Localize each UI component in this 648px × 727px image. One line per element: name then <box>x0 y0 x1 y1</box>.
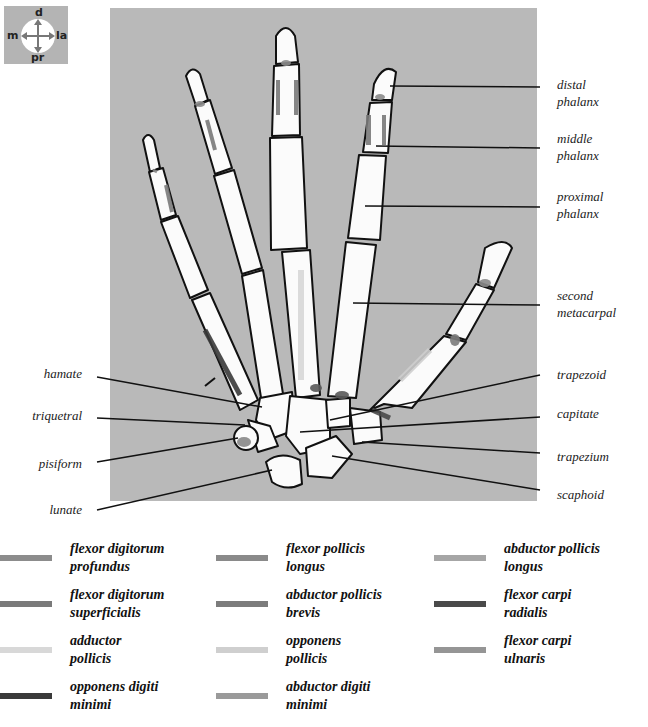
legend-swatch <box>434 647 486 653</box>
label-trapezium: trapezium <box>557 448 609 465</box>
legend-label: opponenspollicis <box>286 632 341 668</box>
label-distal-phalanx: distal phalanx <box>557 76 599 110</box>
label-second-metacarpal: second metacarpal <box>557 287 616 321</box>
trapezoid-bone <box>326 398 350 428</box>
label-proximal-phalanx: proximal phalanx <box>557 188 603 222</box>
label-pisiform: pisiform <box>2 455 82 472</box>
legend-swatch <box>0 601 52 607</box>
label-capitate: capitate <box>557 405 599 422</box>
label-line: second <box>557 287 616 304</box>
label-line: proximal <box>557 188 603 205</box>
label-lunate: lunate <box>2 501 82 518</box>
legend-label: abductor pollicislongus <box>504 540 600 576</box>
legend-label: adductorpollicis <box>70 632 121 668</box>
legend-swatch <box>0 693 52 699</box>
legend-item: flexor carpiradialis <box>434 586 648 626</box>
legend-swatch <box>216 647 268 653</box>
legend-item: adductorpollicis <box>0 632 215 672</box>
legend-label: flexor pollicislongus <box>286 540 365 576</box>
legend-label: flexor carpiulnaris <box>504 632 571 668</box>
label-middle-phalanx: middle phalanx <box>557 130 599 164</box>
label-line: phalanx <box>557 147 599 164</box>
legend-item: flexor pollicislongus <box>216 540 431 580</box>
lunate-bone <box>266 455 302 487</box>
legend-swatch <box>434 601 486 607</box>
legend-item: abductor pollicisbrevis <box>216 586 431 626</box>
label-line: metacarpal <box>557 304 616 321</box>
legend-label: abductor pollicisbrevis <box>286 586 382 622</box>
legend-item: flexor carpiulnaris <box>434 632 648 672</box>
legend-label: flexor digitorumprofundus <box>70 540 165 576</box>
legend-swatch <box>216 693 268 699</box>
label-line: phalanx <box>557 93 599 110</box>
legend-item: abductor digitiminimi <box>216 678 431 718</box>
legend-label: opponens digitiminimi <box>70 678 158 714</box>
legend-swatch <box>0 555 52 561</box>
label-hamate: hamate <box>2 365 82 382</box>
hand-skeleton-diagram <box>0 0 648 520</box>
label-scaphoid: scaphoid <box>557 486 604 503</box>
legend-swatch <box>216 601 268 607</box>
legend-label: flexor carpiradialis <box>504 586 571 622</box>
legend-label: flexor digitorumsuperficialis <box>70 586 165 622</box>
legend-item: opponenspollicis <box>216 632 431 672</box>
legend-swatch <box>216 555 268 561</box>
label-line: phalanx <box>557 205 603 222</box>
label-triquetral: triquetral <box>2 407 82 424</box>
label-trapezoid: trapezoid <box>557 366 606 383</box>
legend-swatch <box>0 647 52 653</box>
legend-swatch <box>434 555 486 561</box>
legend-item: abductor pollicislongus <box>434 540 648 580</box>
label-line: distal <box>557 76 599 93</box>
label-line: middle <box>557 130 599 147</box>
legend-item: opponens digitiminimi <box>0 678 215 718</box>
legend-label: abductor digitiminimi <box>286 678 370 714</box>
legend-item: flexor digitorumsuperficialis <box>0 586 215 626</box>
legend-item: flexor digitorumprofundus <box>0 540 215 580</box>
